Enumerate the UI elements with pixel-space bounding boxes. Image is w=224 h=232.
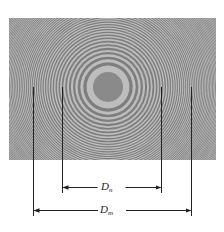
interference-ring-diagram: Dn Dm — [0, 0, 224, 232]
label-d-n: Dn — [101, 181, 112, 194]
diagram-canvas — [0, 0, 224, 232]
label-d-m: Dm — [100, 204, 113, 217]
